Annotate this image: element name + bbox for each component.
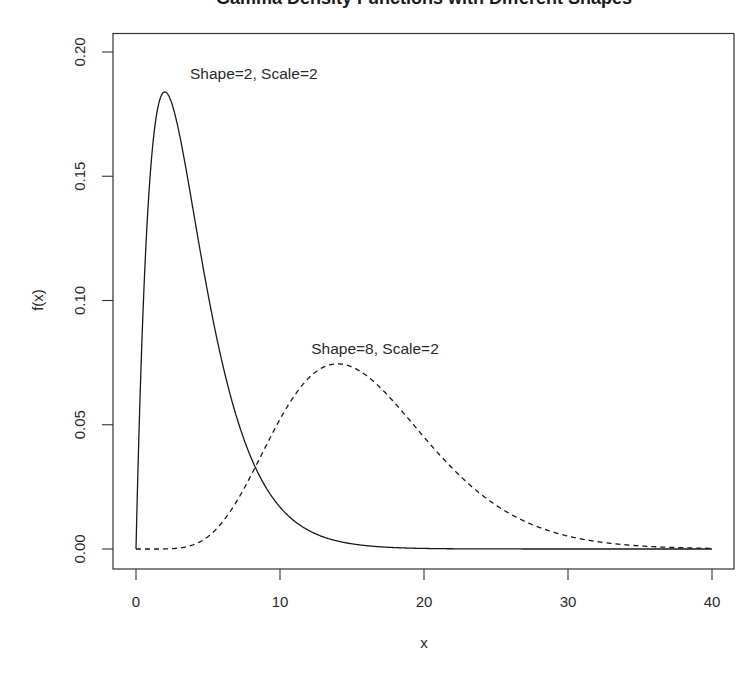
x-tick-labels: 0 10 20 30 40 <box>132 593 721 610</box>
x-tick-label: 20 <box>416 593 433 610</box>
series-shape8-scale2-line <box>136 364 712 549</box>
gamma-density-chart: Gamma Density Functions with Different S… <box>0 0 755 673</box>
series-shape2-scale2-line <box>136 92 712 549</box>
y-tick-label: 0.15 <box>71 162 88 191</box>
y-tick-label: 0.10 <box>71 286 88 315</box>
y-axis-label: f(x) <box>29 289 46 311</box>
chart-title: Gamma Density Functions with Different S… <box>216 0 632 8</box>
x-tick-label: 0 <box>132 593 140 610</box>
x-axis <box>136 569 712 580</box>
y-tick-labels: 0.00 0.05 0.10 0.15 0.20 <box>71 37 88 563</box>
y-tick-label: 0.05 <box>71 410 88 439</box>
x-axis-label: x <box>420 634 428 651</box>
y-axis <box>102 52 113 549</box>
annotation-shape2-scale2: Shape=2, Scale=2 <box>190 65 318 82</box>
x-tick-label: 10 <box>272 593 289 610</box>
y-tick-label: 0.20 <box>71 37 88 66</box>
x-tick-label: 30 <box>560 593 577 610</box>
plot-frame <box>113 34 734 570</box>
x-tick-label: 40 <box>704 593 721 610</box>
y-tick-label: 0.00 <box>71 534 88 563</box>
annotation-shape8-scale2: Shape=8, Scale=2 <box>311 340 439 357</box>
